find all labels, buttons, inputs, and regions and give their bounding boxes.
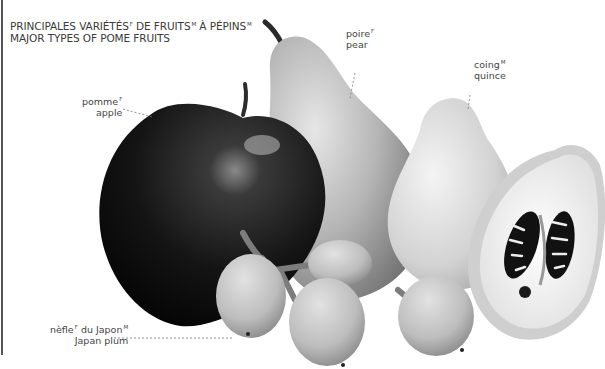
label-quince: coingM quince bbox=[474, 57, 506, 81]
title-french: PRINCIPALES VARIÉTÉSF DE FRUITSM À PÉPIN… bbox=[10, 18, 252, 32]
title-english: MAJOR TYPES OF POME FRUITS bbox=[10, 32, 252, 44]
label-pear: poireF pear bbox=[346, 26, 374, 50]
quince-calyx bbox=[519, 286, 531, 298]
label-apple: pommeF apple bbox=[82, 94, 122, 118]
japan-plum-right bbox=[398, 276, 474, 356]
plate-title: PRINCIPALES VARIÉTÉSF DE FRUITSM À PÉPIN… bbox=[10, 18, 252, 44]
japan-plum-middle bbox=[289, 278, 365, 366]
pome-fruits-illustration bbox=[0, 0, 605, 369]
japan-plum-left bbox=[216, 254, 286, 338]
apple-stem bbox=[243, 84, 246, 115]
pear-stem bbox=[265, 22, 282, 44]
label-japan-plum: nèfleF du JaponM Japan plum bbox=[50, 322, 128, 346]
japan-plum-top bbox=[308, 240, 372, 286]
